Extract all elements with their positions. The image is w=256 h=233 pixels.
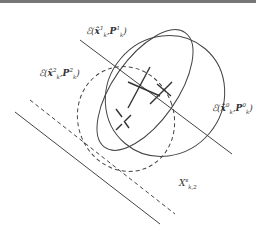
label-ellipse-1: ℰ(x̂1k,P1k) [86, 27, 127, 36]
strip-boundary-dashed [30, 100, 175, 214]
strip-boundary-solid [15, 112, 160, 224]
ellipsoid-diagram [0, 0, 256, 233]
label-strip: Xsk,2 [179, 179, 197, 188]
center-cross-2 [116, 109, 131, 130]
label-ellipse-2: ℰ(x̂2k,P2k) [39, 69, 80, 78]
label-ellipse-0: ℰ(x̂0k,P0k) [212, 104, 253, 113]
hyperplane-line-upper [80, 40, 232, 154]
ellipse-2-dashed [63, 53, 189, 185]
